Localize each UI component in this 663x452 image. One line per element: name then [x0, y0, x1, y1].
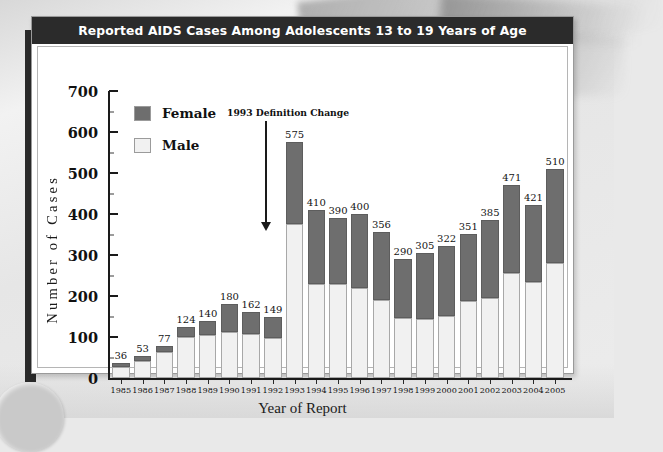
- x-axis-tick-label-2001: 2001: [458, 385, 479, 395]
- x-axis-tick-label-1986: 1986: [132, 385, 153, 395]
- x-axis-tick-label-2002: 2002: [480, 385, 501, 395]
- x-axis-tick-label-2004: 2004: [523, 385, 544, 395]
- bar-segment-female-1992: [264, 317, 281, 338]
- bar-value-label-2002: 385: [480, 207, 499, 218]
- x-axis-tick-mark: [273, 380, 274, 384]
- x-axis-tick-label-1990: 1990: [219, 385, 240, 395]
- bar-group-1995[interactable]: [329, 218, 346, 378]
- bar-segment-female-2005: [546, 169, 563, 263]
- plot-frame: Number of Cases 0100200300400500600700 F…: [37, 46, 568, 368]
- bar-value-label-1993: 575: [285, 129, 304, 140]
- bar-group-2004[interactable]: [525, 205, 542, 378]
- x-axis-tick-label-1995: 1995: [328, 385, 349, 395]
- x-axis-tick-mark: [468, 380, 469, 384]
- bar-segment-male-1989: [199, 335, 216, 378]
- x-axis-tick-label-2000: 2000: [436, 385, 457, 395]
- x-axis-tick-mark: [208, 380, 209, 384]
- bar-group-1992[interactable]: [264, 317, 281, 378]
- bar-segment-female-1998: [394, 259, 411, 318]
- x-axis-tick-mark: [295, 380, 296, 384]
- bar-value-label-2005: 510: [546, 156, 565, 167]
- bar-group-1986[interactable]: [134, 356, 151, 378]
- bar-value-label-1987: 77: [158, 333, 171, 344]
- bar-segment-female-1990: [221, 304, 238, 332]
- x-axis-tick-mark: [381, 380, 382, 384]
- bar-group-1987[interactable]: [156, 346, 173, 378]
- x-axis-tick-label-1998: 1998: [393, 385, 414, 395]
- bar-group-2001[interactable]: [460, 234, 477, 378]
- bar-segment-male-1992: [264, 338, 281, 378]
- bar-segment-male-1991: [242, 334, 259, 378]
- bar-value-label-2004: 421: [524, 192, 543, 203]
- bar-group-2005[interactable]: [546, 169, 563, 378]
- bar-segment-female-2002: [481, 220, 498, 297]
- x-axis-tick-mark: [143, 380, 144, 384]
- x-axis-tick-mark: [186, 380, 187, 384]
- bar-segment-female-2003: [503, 185, 520, 273]
- x-axis-tick-mark: [338, 380, 339, 384]
- bar-value-label-2000: 322: [437, 233, 456, 244]
- bar-segment-female-2001: [460, 234, 477, 301]
- bar-group-1988[interactable]: [177, 327, 194, 378]
- bar-group-1998[interactable]: [394, 259, 411, 378]
- bar-value-label-1999: 305: [415, 240, 434, 251]
- x-axis-tick-label-1991: 1991: [241, 385, 262, 395]
- x-axis-tick-label-1989: 1989: [197, 385, 218, 395]
- x-axis-tick-mark: [447, 380, 448, 384]
- bar-segment-male-1996: [351, 288, 368, 378]
- bar-group-1993[interactable]: [286, 142, 303, 378]
- x-axis-tick-label-1997: 1997: [371, 385, 392, 395]
- bar-segment-male-2005: [546, 263, 563, 378]
- bar-value-label-1985: 36: [114, 350, 127, 361]
- bar-segment-female-1991: [242, 312, 259, 334]
- bar-group-1996[interactable]: [351, 214, 368, 378]
- x-axis-tick-label-1992: 1992: [263, 385, 284, 395]
- x-axis-tick-mark: [360, 380, 361, 384]
- x-axis-tick-mark: [490, 380, 491, 384]
- x-axis-tick-mark: [533, 380, 534, 384]
- bar-segment-male-1995: [329, 284, 346, 378]
- bar-segment-male-1988: [177, 337, 194, 378]
- bar-group-2002[interactable]: [481, 220, 498, 378]
- bar-value-label-2001: 351: [459, 221, 478, 232]
- bar-value-label-1992: 149: [263, 304, 282, 315]
- x-axis-tick-mark: [403, 380, 404, 384]
- background-circle-shape: [0, 382, 64, 452]
- x-axis-title: Year of Report: [38, 400, 567, 417]
- bar-segment-male-1993: [286, 224, 303, 378]
- x-axis-tick-label-1999: 1999: [415, 385, 436, 395]
- bar-group-2003[interactable]: [503, 185, 520, 378]
- bar-segment-male-2003: [503, 273, 520, 378]
- bar-segment-female-1996: [351, 214, 368, 288]
- bar-segment-female-1993: [286, 142, 303, 224]
- bar-group-1989[interactable]: [199, 321, 216, 378]
- bar-value-label-1991: 162: [242, 299, 261, 310]
- bar-segment-male-1990: [221, 332, 238, 378]
- chart-figure-card: Reported AIDS Cases Among Adolescents 13…: [31, 16, 574, 374]
- bar-segment-female-1999: [416, 253, 433, 319]
- x-axis-tick-mark: [512, 380, 513, 384]
- x-axis-tick-label-1996: 1996: [349, 385, 370, 395]
- bar-group-1991[interactable]: [242, 312, 259, 378]
- bar-segment-male-1987: [156, 352, 173, 378]
- bar-group-1990[interactable]: [221, 304, 238, 378]
- x-axis-tick-mark: [555, 380, 556, 384]
- bar-group-1997[interactable]: [373, 232, 390, 378]
- bar-value-label-1996: 400: [350, 201, 369, 212]
- bar-group-2000[interactable]: [438, 246, 455, 378]
- y-axis-tick-label: 0: [52, 370, 98, 387]
- bar-segment-male-2002: [481, 298, 498, 378]
- bar-value-label-1998: 290: [394, 246, 413, 257]
- bar-value-label-1988: 124: [176, 314, 195, 325]
- x-axis-tick-label-1994: 1994: [306, 385, 327, 395]
- x-axis-tick-label-1987: 1987: [154, 385, 175, 395]
- x-axis-tick-mark: [121, 380, 122, 384]
- bar-group-1999[interactable]: [416, 253, 433, 378]
- bar-group-1985[interactable]: [112, 363, 129, 378]
- x-axis-tick-label-1993: 1993: [284, 385, 305, 395]
- bar-value-label-1994: 410: [307, 197, 326, 208]
- x-axis-line: [108, 378, 572, 380]
- bar-group-1994[interactable]: [308, 210, 325, 378]
- bar-value-label-1989: 140: [198, 308, 217, 319]
- bar-segment-male-1997: [373, 300, 390, 378]
